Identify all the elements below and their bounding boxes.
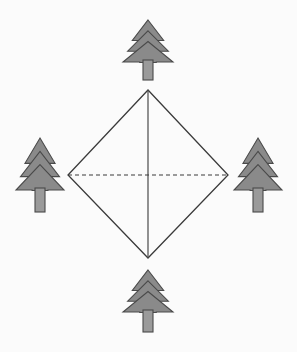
tree-north-trunk bbox=[143, 60, 153, 80]
tree-west-trunk bbox=[35, 188, 45, 212]
tree-east-trunk bbox=[253, 188, 263, 212]
diagram-canvas bbox=[0, 0, 297, 352]
tree-south-trunk bbox=[143, 310, 153, 332]
figure-root bbox=[0, 0, 297, 352]
